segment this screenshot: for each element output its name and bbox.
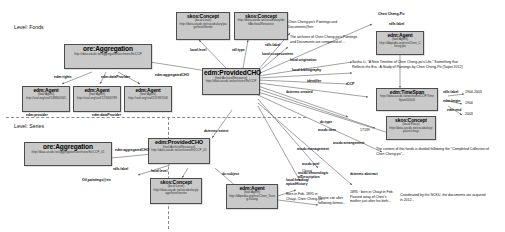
literal-identifier-ccp: CCP [347,82,354,87]
node-edm-providedcho-fonds[interactable]: edm:ProvidedCHO (foaf:ArchivalResource) … [202,68,260,95]
node-skos-concept-level-fonds[interactable]: skos:Concept (local:Level) http://data.a… [176,12,230,40]
node-uri: http://viaf.org/viaf/211987006 [126,97,170,100]
edge-label-edm-begin: edm:begin [443,99,460,103]
edge-label-rdfs-label-oil: rdfs:label [113,167,128,171]
node-edm-agent-2[interactable]: edm:Agent (foaf:Agent) http://viaf.org/v… [73,86,121,112]
edge-label-local-level-fonds: local:level [190,48,206,52]
edge-label-ascdc-pref: ascdc:pref [302,162,319,166]
node-uri: http://data.ascdc.tw/archives/CCP/TimeSp… [378,95,436,102]
edge-label-dcterms-abstract: dcterms:abstract [350,172,378,176]
edge-label-local-origination: local:origination [290,58,316,62]
literal-arrangement: The content of this fonds is divided fol… [376,147,496,156]
literal-title-en: Chen Cheng-po's Paintings and Documents@… [288,20,362,29]
node-edm-providedcho-series[interactable]: edm:ProvidedCHO (foaf:ArchivalResource) … [148,138,210,164]
literal-begin-year: 1904 [465,101,473,106]
node-uri: http://dbpedia.org/res/Chen_Tsung-Kuang [228,195,276,202]
edge-label-local-bibliography: local:bibliography [292,68,321,72]
node-edm-agent-1[interactable]: edm:Agent (foaf:Agent) http://viaf.org/v… [22,86,70,112]
node-uri: http://data.ascdc.tw/vocabulary/page/lev… [152,189,200,196]
literal-oil-paintings: Oil paintings@en [82,178,111,183]
section-divider-fonds [6,117,306,118]
node-skos-concept-level-series[interactable]: skos:Concept (local:Level) http://data.a… [150,178,202,204]
literal-cite-format: Please cite after following format... [318,196,348,205]
literal-item-count: 17139 [360,128,370,133]
edge-label-rdfs-label-agent: rdfs:label [389,22,404,26]
edge-label-edm-rights: edm:rights [54,75,72,79]
node-uri: http://viaf.org/viaf/138650345 [24,97,68,100]
node-uri: http://dbpedia.org/res/Chen_Cheng-po [378,42,422,49]
edge-label-edm-aggregatedcho-2: edm:aggregatedCHO [115,148,149,152]
section-divider-vertical [168,117,169,229]
edge-label-edm-dataprovider-2: edm:dataProvider [92,113,121,117]
section-label-fonds: Level: Fonds [14,24,44,30]
edge-label-rdf-type-fonds: rdf:type [232,48,245,52]
edge-label-rdfs-label-fonds: rdfs:label [265,43,280,47]
node-uri: http://data.ascdc.tw/vocabulary/page/lev… [178,23,228,30]
node-skos-concept-type-fonds[interactable]: skos:Concept http://data.ascdc.tw/vocabu… [234,12,288,40]
node-ore-aggregation-fonds[interactable]: ore:Aggregation http://data.ascdc.tw/agg… [64,44,152,69]
literal-place-chiayi: Chiayi [302,169,312,174]
edge-label-local-scopecontent: local:scopecontent [262,52,293,56]
node-uri: http://viaf.org/viaf/123456789 [75,97,119,100]
literal-timespan-label: 1904-2003 [465,90,482,95]
section-label-series: Level: Series [14,123,44,129]
edge-label-ascdc-arrangement: ascdc:arrangement [333,141,364,145]
node-edm-agent-3[interactable]: edm:Agent (foaf:Agent) http://viaf.org/v… [124,86,172,112]
node-uri: http://data.ascdc.tw/archives/ffs/CCP_01 [150,149,208,152]
literal-scopecontent: The archives of Chen Cheng-po's Painting… [290,35,362,44]
node-uri: http://data.ascdc.tw/vocabulary/def/Arch… [236,19,286,26]
edge-label-rdfs-label-timespan: rdfs:label [443,90,458,94]
node-uri: http://data.ascdc.tw/aggregation/archive… [66,53,150,56]
edge-label-edm-end: edm:end [447,108,461,112]
literal-agent-name: Chen Cheng-Po [378,12,404,17]
literal-bibliography: Sasha Li, "A New Timeline of Chen Cheng-… [352,60,470,69]
edge-label-identifier: identifier [307,79,321,83]
edge-label-dc-type: dc:type [320,120,332,124]
literal-end-year: 2003 [465,112,473,117]
node-edm-timespan[interactable]: edm:TimeSpan http://data.ascdc.tw/archiv… [376,88,438,111]
edge-label-dcterms-extent: dcterms:extent [204,129,228,133]
diagram-canvas: Level: Fonds Level: Series ore:Aggregati… [0,0,505,232]
edge-label-local-level-series: local:level [151,169,167,173]
node-skos-concept-place[interactable]: skos:Concept (local:Place) http://data.a… [386,116,436,140]
node-uri: http://data.ascdc.tw/aggregation/archive… [26,151,110,154]
literal-chronological: 1895 : born in Chiayi in Feb. Passed awa… [350,190,394,204]
edge-label-ascdc-item: ascdc:item [318,128,336,132]
literal-management: Coordinated by the NCKU, the documents a… [400,193,486,202]
node-uri: http://data.ascdc.tw/archives/ffs/CCP [204,80,258,83]
node-edm-agent-bottom[interactable]: edm:Agent (foaf:Agent) http://dbpedia.or… [226,184,278,209]
node-uri: http://data.ascdc.tw/vocabulary/place/ch… [388,127,434,134]
node-edm-agent-chen-cheng-po[interactable]: edm:Agent (foaf:Agent) http://dbpedia.or… [376,31,424,55]
edge-label-dc-subject: dc:subject [222,172,239,176]
edge-label-local-heading: local:heading/ apicalHistory [286,178,320,186]
edge-label-edm-dataprovider: edm:dataProvider [101,75,130,79]
edge-label-edm-aggregatedcho-1: edm:aggregatedCHO [155,73,189,77]
edge-label-ascdc-management: ascdc:management [297,147,329,151]
node-ore-aggregation-series[interactable]: ore:Aggregation http://data.ascdc.tw/agg… [24,142,112,166]
edge-label-edm-provider: edm:provider [26,113,48,117]
edge-label-dcterms-created: dcterms:created [286,90,313,94]
